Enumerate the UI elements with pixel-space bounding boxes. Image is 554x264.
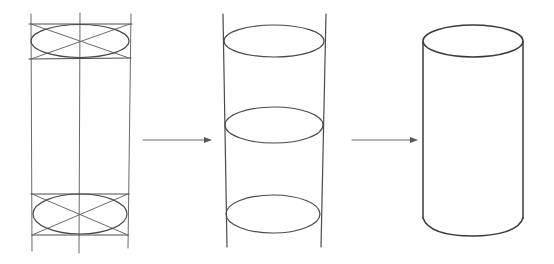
top-ellipse [224, 25, 324, 57]
cylinder-bottom-arc [423, 218, 523, 236]
right-guide-line [128, 14, 131, 248]
left-guide-line [31, 14, 32, 251]
right-side-line [321, 14, 326, 247]
center-axis-line [79, 13, 80, 253]
diagram-canvas [0, 0, 554, 264]
top-construction-box [29, 24, 132, 59]
arrow-1 [143, 137, 212, 143]
middle-ellipse [225, 107, 323, 143]
bottom-ellipse [226, 195, 320, 233]
stage-1-construction [29, 13, 132, 253]
arrow-head-icon [410, 137, 418, 143]
arrow-head-icon [204, 137, 212, 143]
cylinder-top-ellipse [423, 25, 523, 57]
bottom-construction-box [31, 194, 129, 235]
cylinder-drawing-diagram: Drawing a cylinder in three stages [0, 0, 554, 264]
stage-2-ellipses [223, 14, 326, 247]
stage-3-finished-cylinder [423, 25, 523, 236]
arrow-2 [352, 137, 418, 143]
